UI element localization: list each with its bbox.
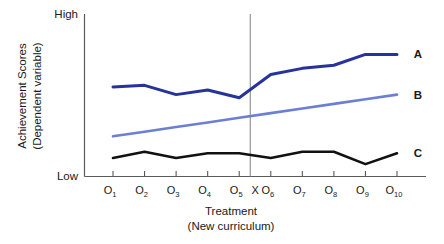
- chart-container: High Low Achievement Scores (Dependent v…: [0, 0, 444, 244]
- series-label-c: C: [414, 147, 422, 159]
- x-axis-tick-label: O2: [135, 184, 148, 199]
- y-axis-title-line1: Achievement Scores: [16, 43, 28, 149]
- y-axis-title-line2: (Dependent variable): [31, 42, 43, 150]
- y-axis-title: Achievement Scores (Dependent variable): [16, 42, 43, 150]
- x-axis-tick-label: O10: [386, 184, 403, 199]
- x-axis-tick-label: O6: [261, 184, 274, 199]
- chart-axes: [85, 14, 427, 177]
- series-layer: [113, 54, 397, 164]
- x-axis-title-line2: (New curriculum): [188, 220, 275, 232]
- intervention-x-label: X: [252, 184, 260, 196]
- series-line-a: [113, 54, 397, 97]
- x-axis-tick-label: O3: [167, 184, 180, 199]
- series-line-b: [113, 95, 397, 137]
- intervention-marker-group: X: [250, 14, 259, 196]
- y-axis-low-label: Low: [57, 170, 79, 182]
- y-axis-high-label: High: [54, 8, 78, 20]
- x-axis-tick-label: O5: [230, 184, 243, 199]
- series-label-b: B: [414, 89, 422, 101]
- x-axis-tick-label: O8: [325, 184, 338, 199]
- x-axis-tick-label: O7: [293, 184, 306, 199]
- series-line-c: [113, 152, 397, 164]
- x-axis-tick-label: O1: [104, 184, 117, 199]
- x-axis-tick-label: O4: [198, 184, 211, 199]
- line-chart-figure: High Low Achievement Scores (Dependent v…: [0, 0, 444, 244]
- x-axis-title-line1: Treatment: [205, 205, 258, 217]
- x-axis-tick-label: O9: [356, 184, 369, 199]
- series-label-a: A: [414, 48, 422, 60]
- series-legend-labels: ABC: [414, 48, 422, 159]
